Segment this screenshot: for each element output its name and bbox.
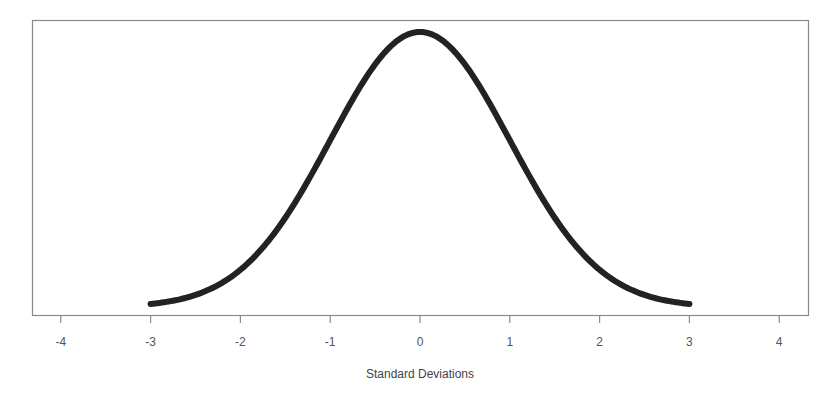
x-axis-ticks [61, 316, 779, 323]
x-tick-label: 1 [506, 335, 513, 349]
x-tick-label: -3 [145, 335, 156, 349]
normal-distribution-chart: -4-3-2-101234 Standard Deviations [0, 0, 832, 398]
x-tick-label: -4 [55, 335, 66, 349]
x-tick-label: -1 [325, 335, 336, 349]
x-tick-label: 2 [596, 335, 603, 349]
plot-frame [33, 21, 809, 316]
x-tick-label: 0 [417, 335, 424, 349]
x-tick-label: 4 [776, 335, 783, 349]
x-axis-title: Standard Deviations [366, 367, 474, 381]
x-tick-label: -2 [235, 335, 246, 349]
x-tick-label: 3 [686, 335, 693, 349]
x-axis-tick-labels: -4-3-2-101234 [55, 335, 782, 349]
